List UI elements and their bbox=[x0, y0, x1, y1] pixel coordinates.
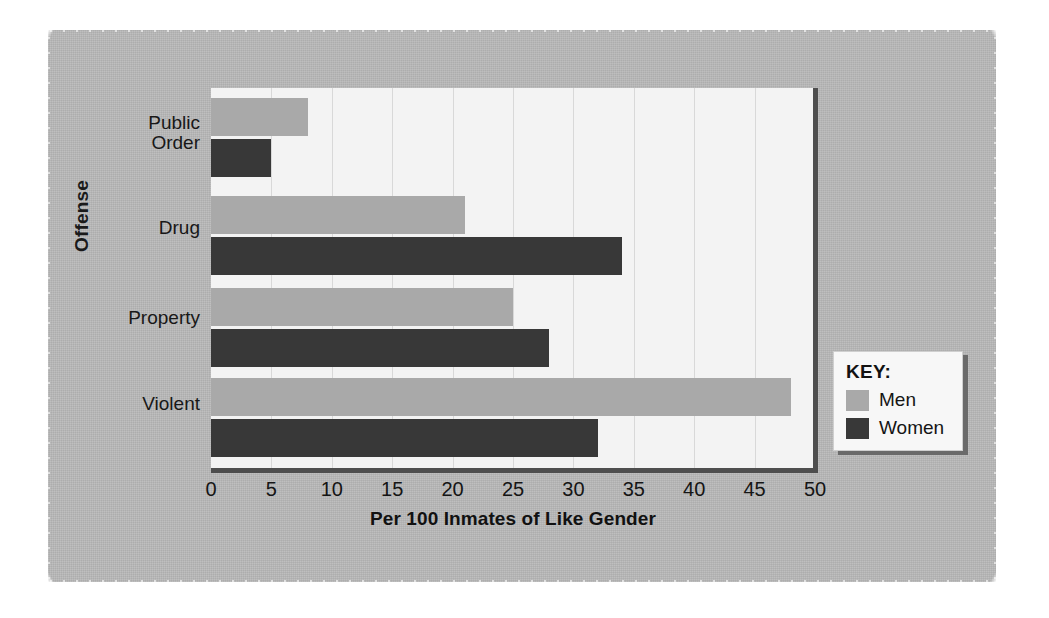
x-tick-label: 50 bbox=[793, 478, 837, 501]
x-tick-label: 35 bbox=[612, 478, 656, 501]
plot-right-rule bbox=[813, 88, 818, 473]
legend-label-women: Women bbox=[879, 417, 944, 439]
x-axis-title: Per 100 Inmates of Like Gender bbox=[211, 508, 815, 530]
x-tick-label: 10 bbox=[310, 478, 354, 501]
bar-property-women bbox=[211, 329, 549, 367]
category-label-violent: Violent bbox=[50, 394, 200, 414]
category-label-line1: Public bbox=[50, 113, 200, 133]
legend-swatch-men bbox=[846, 390, 869, 411]
x-tick-label: 0 bbox=[189, 478, 233, 501]
category-label-line2: Order bbox=[50, 133, 200, 153]
category-label-line1: Drug bbox=[50, 218, 200, 238]
x-tick-label: 15 bbox=[370, 478, 414, 501]
plot-inner bbox=[211, 88, 815, 470]
legend: KEY: Men Women bbox=[833, 351, 963, 451]
category-label-drug: Drug bbox=[50, 218, 200, 238]
bar-violent-men bbox=[211, 378, 791, 416]
bar-violent-women bbox=[211, 419, 598, 457]
bar-drug-women bbox=[211, 237, 622, 275]
category-label-line1: Property bbox=[50, 308, 200, 328]
legend-item-men: Men bbox=[846, 389, 952, 411]
legend-label-men: Men bbox=[879, 389, 916, 411]
x-tick-label: 30 bbox=[551, 478, 595, 501]
bar-drug-men bbox=[211, 196, 465, 234]
x-axis-rule bbox=[211, 468, 818, 473]
category-label-public-order: Public Order bbox=[50, 113, 200, 153]
x-tick-label: 25 bbox=[491, 478, 535, 501]
x-tick-label: 40 bbox=[672, 478, 716, 501]
legend-item-women: Women bbox=[846, 417, 952, 439]
bar-property-men bbox=[211, 288, 513, 326]
x-tick-label: 5 bbox=[249, 478, 293, 501]
bar-public-order-men bbox=[211, 98, 308, 136]
legend-swatch-women bbox=[846, 418, 869, 439]
x-tick-label: 45 bbox=[733, 478, 777, 501]
bar-public-order-women bbox=[211, 139, 271, 177]
category-label-line1: Violent bbox=[50, 394, 200, 414]
legend-title: KEY: bbox=[846, 361, 952, 383]
plot-area bbox=[211, 88, 815, 470]
x-tick-label: 20 bbox=[431, 478, 475, 501]
category-label-property: Property bbox=[50, 308, 200, 328]
